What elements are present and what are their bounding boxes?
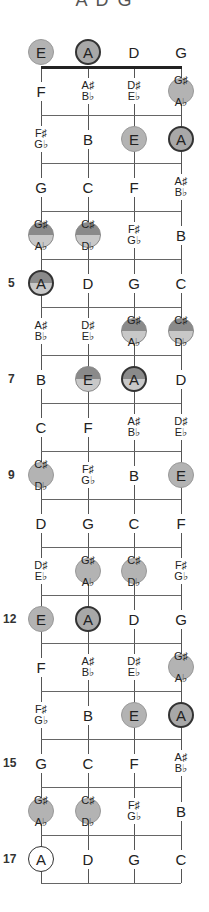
note-name: C♯ bbox=[81, 219, 94, 230]
note-label: F bbox=[129, 754, 138, 773]
note-name-enharmonic: A♭ bbox=[35, 241, 47, 252]
note-cell: G♯A♭ bbox=[165, 75, 197, 107]
nut-line bbox=[41, 66, 182, 69]
note-cell: E bbox=[25, 603, 57, 635]
note-cell: F♯G♭ bbox=[118, 795, 150, 827]
note-cell: A♯B♭ bbox=[118, 411, 150, 443]
note-name: E bbox=[129, 708, 139, 723]
note-label: F♯G♭ bbox=[34, 702, 48, 728]
fret-line bbox=[41, 643, 181, 644]
note-name-enharmonic: A♭ bbox=[175, 97, 187, 108]
note-label: G bbox=[175, 43, 187, 62]
note-name: G bbox=[128, 851, 140, 868]
fret-line bbox=[41, 547, 181, 548]
note-cell: D♯E♭ bbox=[25, 555, 57, 587]
fret-line bbox=[41, 211, 181, 212]
note-label: C bbox=[36, 418, 47, 437]
note-name: F bbox=[83, 419, 92, 436]
note-cell: F bbox=[118, 171, 150, 203]
note-cell: G♯A♭ bbox=[25, 795, 57, 827]
fret-line bbox=[41, 307, 181, 308]
note-name-enharmonic: A♭ bbox=[35, 817, 47, 828]
note-label: C bbox=[176, 274, 187, 293]
note-cell: D♯E♭ bbox=[165, 411, 197, 443]
note-cell: F♯G♭ bbox=[165, 555, 197, 587]
note-name-enharmonic: A♭ bbox=[82, 577, 94, 588]
note-cell: G bbox=[165, 36, 197, 68]
note-name: G♯ bbox=[174, 651, 188, 662]
note-cell: D bbox=[118, 36, 150, 68]
note-name-enharmonic: D♭ bbox=[82, 241, 95, 252]
note-label: B bbox=[176, 802, 186, 821]
note-name: G bbox=[35, 755, 47, 772]
note-name: B bbox=[176, 803, 186, 820]
note-name: A bbox=[83, 45, 93, 60]
note-cell: A bbox=[165, 699, 197, 731]
highlighted-note-circle: C♯D♭ bbox=[75, 798, 101, 824]
highlighted-note-circle: G♯A♭ bbox=[121, 318, 147, 344]
note-cell: A♯B♭ bbox=[165, 171, 197, 203]
note-cell: F♯G♭ bbox=[118, 219, 150, 251]
note-name: A bbox=[83, 612, 93, 627]
note-name: G bbox=[128, 275, 140, 292]
note-name: G♯ bbox=[34, 795, 48, 806]
note-cell: E bbox=[72, 363, 104, 395]
highlighted-note-circle: E bbox=[28, 39, 54, 65]
note-label: B bbox=[36, 370, 46, 389]
note-name: G♯ bbox=[174, 75, 188, 86]
note-label: D♯E♭ bbox=[34, 558, 47, 584]
note-name-enharmonic: A♭ bbox=[128, 337, 140, 348]
note-name: E bbox=[83, 372, 93, 387]
note-cell: C♯D♭ bbox=[118, 555, 150, 587]
note-name: C♯ bbox=[127, 555, 140, 566]
note-name: G bbox=[35, 179, 47, 196]
note-cell: F bbox=[25, 75, 57, 107]
note-cell: F bbox=[72, 411, 104, 443]
highlighted-note-circle: G♯A♭ bbox=[28, 222, 54, 248]
note-name: A bbox=[176, 708, 186, 723]
note-cell: E bbox=[165, 459, 197, 491]
note-name: F bbox=[36, 83, 45, 100]
highlighted-note-circle: G♯A♭ bbox=[75, 558, 101, 584]
note-cell: D bbox=[25, 507, 57, 539]
note-name: D bbox=[129, 44, 140, 61]
note-label: G bbox=[128, 274, 140, 293]
note-cell: A bbox=[118, 363, 150, 395]
note-cell: F♯G♭ bbox=[72, 459, 104, 491]
note-name: G♯ bbox=[81, 555, 95, 566]
note-cell: C bbox=[72, 747, 104, 779]
note-name: A bbox=[176, 132, 186, 147]
note-cell: C bbox=[165, 843, 197, 875]
note-cell: A♯B♭ bbox=[72, 75, 104, 107]
note-name-enharmonic: E♭ bbox=[175, 426, 187, 438]
note-name-enharmonic: G♭ bbox=[81, 474, 95, 486]
note-name: F bbox=[36, 659, 45, 676]
highlighted-note-circle: E bbox=[121, 126, 147, 152]
note-cell: C♯D♭ bbox=[72, 219, 104, 251]
note-label: D bbox=[176, 370, 187, 389]
highlighted-note-circle: A bbox=[168, 126, 194, 152]
note-cell: B bbox=[118, 459, 150, 491]
highlighted-note-circle: A bbox=[75, 606, 101, 632]
note-name: C♯ bbox=[34, 459, 47, 470]
note-label: C bbox=[129, 514, 140, 533]
note-name-enharmonic: A♭ bbox=[175, 673, 187, 684]
note-label: A♯B♭ bbox=[82, 78, 95, 104]
note-name-enharmonic: G♭ bbox=[127, 810, 141, 822]
note-name-enharmonic: E♭ bbox=[128, 90, 140, 102]
note-name-enharmonic: D♭ bbox=[82, 817, 95, 828]
note-cell: E bbox=[118, 699, 150, 731]
note-label: F bbox=[176, 514, 185, 533]
highlighted-note-circle: C♯D♭ bbox=[121, 558, 147, 584]
note-name: D bbox=[36, 515, 47, 532]
note-cell: D bbox=[72, 267, 104, 299]
note-name-enharmonic: B♭ bbox=[175, 186, 187, 198]
highlighted-note-circle: A bbox=[121, 366, 147, 392]
note-cell: C♯D♭ bbox=[25, 459, 57, 491]
fret-line bbox=[41, 163, 181, 164]
note-name-enharmonic: D♭ bbox=[35, 481, 48, 492]
note-label: D♯E♭ bbox=[127, 654, 140, 680]
note-label: F♯G♭ bbox=[34, 126, 48, 152]
note-label: D♯E♭ bbox=[127, 78, 140, 104]
note-name: C bbox=[176, 275, 187, 292]
